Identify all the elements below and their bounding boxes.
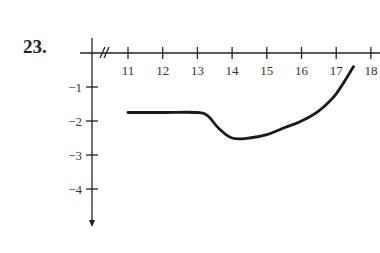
- x-tick-label: 18: [364, 63, 377, 78]
- y-ticks: −1−2−3−4: [68, 80, 98, 197]
- chart: 1112131415161718 −1−2−3−4: [0, 0, 380, 253]
- x-tick-label: 15: [260, 63, 273, 78]
- x-ticks: 1112131415161718: [122, 47, 378, 78]
- y-tick-label: −1: [68, 80, 82, 95]
- x-tick-label: 14: [226, 63, 240, 78]
- x-tick-label: 13: [191, 63, 204, 78]
- arrow-down-icon: [89, 220, 95, 227]
- y-tick-label: −4: [68, 182, 82, 197]
- x-tick-label: 12: [156, 63, 169, 78]
- y-tick-label: −3: [68, 148, 82, 163]
- x-tick-label: 17: [330, 63, 344, 78]
- x-tick-label: 11: [122, 63, 135, 78]
- y-tick-label: −2: [68, 114, 82, 129]
- x-tick-label: 16: [295, 63, 309, 78]
